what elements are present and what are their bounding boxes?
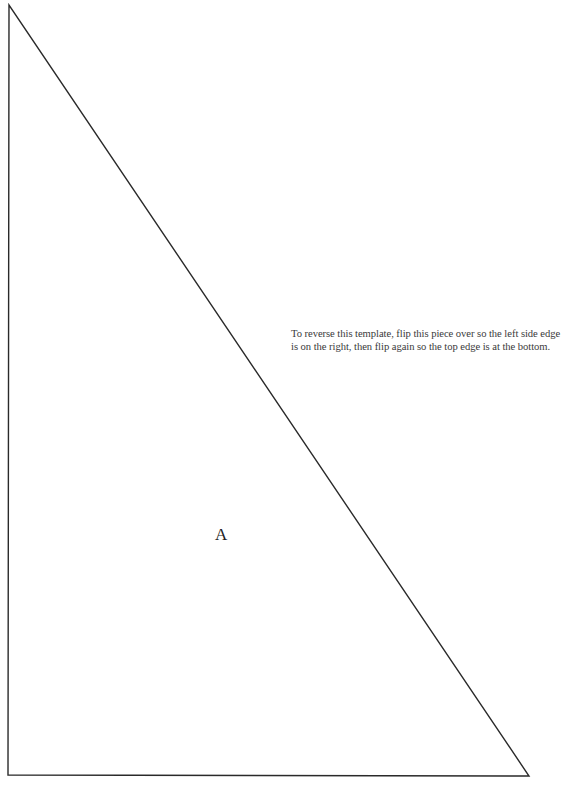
reverse-template-instructions: To reverse this template, flip this piec…: [291, 327, 582, 353]
instructions-line-1: To reverse this template, flip this piec…: [291, 327, 582, 340]
triangle-piece-a: [8, 5, 529, 776]
template-triangle-outline: [0, 0, 582, 786]
instructions-line-2: is on the right, then flip again so the …: [291, 340, 582, 353]
piece-label: A: [215, 526, 227, 544]
